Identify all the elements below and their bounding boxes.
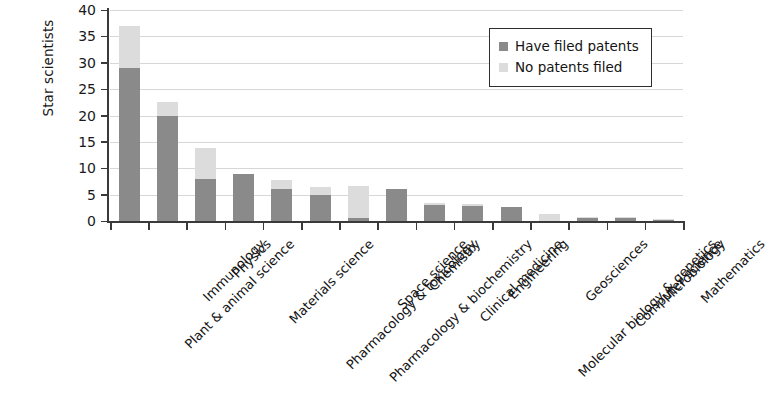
x-axis-tick-mark xyxy=(339,223,341,230)
y-axis-tick-label: 20 xyxy=(60,109,96,123)
x-axis-label: Mathematics xyxy=(698,237,767,306)
bar-segment-have-filed-patents xyxy=(195,179,216,221)
bar-segment-have-filed-patents xyxy=(310,195,331,221)
x-axis-label: Clinical medicine xyxy=(477,237,565,325)
bar-segment-have-filed-patents xyxy=(462,206,483,221)
x-axis-tick-mark xyxy=(607,223,609,230)
legend-swatch-have-filed-patents xyxy=(499,42,508,51)
x-axis-label: Computer science xyxy=(632,237,725,330)
gridline xyxy=(110,116,683,117)
x-axis-label: Pharmacology & toxicology xyxy=(344,237,479,372)
x-axis-label: Plant & animal science xyxy=(183,237,297,351)
bar-immunology xyxy=(157,102,178,221)
x-axis-tick-mark xyxy=(530,223,532,230)
y-axis-tick-label: 0 xyxy=(60,214,96,228)
bar-segment-no-patents-filed xyxy=(157,102,178,116)
x-axis-label: Space science xyxy=(395,237,470,312)
bar-segment-no-patents-filed xyxy=(424,203,445,205)
gridline xyxy=(110,10,683,11)
x-axis-tick-mark xyxy=(377,223,379,230)
y-axis-line xyxy=(107,8,109,223)
bar-physics xyxy=(195,148,216,221)
bar-segment-have-filed-patents xyxy=(653,220,674,221)
bar-segment-have-filed-patents xyxy=(424,205,445,221)
y-axis-tick-label: 35 xyxy=(60,29,96,43)
bar-molecular-biology-genetics xyxy=(501,207,522,221)
x-axis-tick-mark xyxy=(301,223,303,230)
x-axis-tick-mark xyxy=(568,223,570,230)
bar-materials-science xyxy=(233,174,254,221)
bar-engineering xyxy=(462,204,483,221)
bar-segment-no-patents-filed xyxy=(577,217,598,219)
x-axis-tick-mark xyxy=(148,223,150,230)
x-axis-line xyxy=(108,221,685,223)
x-axis-tick-mark xyxy=(416,223,418,230)
bar-segment-no-patents-filed xyxy=(539,214,560,221)
bar-segment-no-patents-filed xyxy=(653,219,674,220)
x-axis-label: Engineering xyxy=(506,237,571,302)
legend-item-have-filed-patents: Have filed patents xyxy=(499,36,639,57)
bar-space-science xyxy=(348,186,369,221)
bar-segment-have-filed-patents xyxy=(271,189,292,221)
bar-segment-no-patents-filed xyxy=(310,187,331,195)
bar-segment-have-filed-patents xyxy=(615,218,636,221)
y-axis-tick-label: 30 xyxy=(60,56,96,70)
bar-segment-no-patents-filed xyxy=(348,186,369,218)
bar-segment-no-patents-filed xyxy=(462,204,483,206)
gridline xyxy=(110,89,683,90)
y-axis-tick-label: 10 xyxy=(60,161,96,175)
bar-pharmacology-toxicology xyxy=(271,180,292,221)
chart-legend: Have filed patents No patents filed xyxy=(489,28,652,87)
x-axis-tick-mark xyxy=(683,223,685,230)
bar-segment-no-patents-filed xyxy=(271,180,292,189)
gridline xyxy=(110,142,683,143)
bar-segment-have-filed-patents xyxy=(119,68,140,221)
bar-segment-have-filed-patents xyxy=(501,207,522,221)
bar-geosciences xyxy=(539,214,560,221)
x-axis-tick-mark xyxy=(263,223,265,230)
bar-segment-no-patents-filed xyxy=(119,26,140,68)
y-axis-tick-label: 15 xyxy=(60,135,96,149)
bar-microbiology xyxy=(615,217,636,221)
x-axis-label: Materials science xyxy=(287,237,376,326)
x-axis-label: Immunology xyxy=(201,237,268,304)
x-axis-tick-mark xyxy=(454,223,456,230)
y-axis-title: Star scientists xyxy=(40,0,56,138)
legend-swatch-no-patents-filed xyxy=(499,63,508,72)
bar-segment-have-filed-patents xyxy=(386,189,407,221)
x-axis-label: Microbiology xyxy=(660,237,728,305)
legend-label-have-filed-patents: Have filed patents xyxy=(515,40,639,54)
x-axis-label: Molecular biology & genetics xyxy=(576,237,719,380)
x-axis-label: Chemistry xyxy=(426,237,483,294)
x-axis-tick-mark xyxy=(186,223,188,230)
x-axis-tick-mark xyxy=(225,223,227,230)
bar-mathematics xyxy=(653,219,674,221)
bar-segment-no-patents-filed xyxy=(195,148,216,179)
bar-pharmacology-biochemistry xyxy=(310,187,331,221)
bar-plant-animal-science xyxy=(119,26,140,221)
legend-label-no-patents-filed: No patents filed xyxy=(515,61,622,75)
x-axis-label: Pharmacology & biochemistry xyxy=(387,237,535,385)
x-axis-label: Geosciences xyxy=(583,237,650,304)
y-axis-tick-label: 40 xyxy=(60,3,96,17)
bar-segment-no-patents-filed xyxy=(615,217,636,218)
bar-segment-have-filed-patents xyxy=(577,218,598,221)
x-axis-tick-mark xyxy=(645,223,647,230)
bar-segment-have-filed-patents xyxy=(157,116,178,222)
y-axis-tick-label: 5 xyxy=(60,188,96,202)
bar-clinical-medicine xyxy=(424,203,445,221)
x-axis-label: Physics xyxy=(230,237,274,281)
bar-segment-have-filed-patents xyxy=(348,218,369,221)
legend-item-no-patents-filed: No patents filed xyxy=(499,57,639,78)
bar-chemistry xyxy=(386,189,407,221)
x-axis-tick-mark xyxy=(492,223,494,230)
y-axis-tick-label: 25 xyxy=(60,82,96,96)
x-axis-tick-mark xyxy=(110,223,112,230)
bar-segment-have-filed-patents xyxy=(233,174,254,221)
bar-computer-science xyxy=(577,217,598,221)
